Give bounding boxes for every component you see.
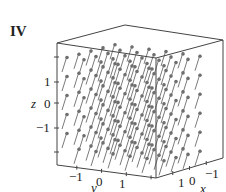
x-tick-label: 1 [178, 175, 185, 190]
field-arrow [195, 149, 202, 165]
field-arrow [178, 147, 185, 163]
field-arrow [142, 157, 149, 173]
field-arrow [74, 129, 81, 145]
cube-edge [156, 40, 223, 58]
field-arrow [178, 109, 185, 125]
field-arrow [166, 150, 173, 166]
field-arrow [62, 75, 69, 91]
x-tick-label: 0 [189, 173, 196, 188]
z-axis-labels: z 1 0 −1 [30, 74, 51, 135]
y-tick-label: 1 [119, 176, 126, 191]
field-arrow [91, 150, 98, 166]
field-arrow [86, 49, 93, 65]
field-arrow [144, 48, 151, 64]
x-tick-label: −1 [205, 166, 219, 181]
z-tick-label: 1 [44, 74, 51, 89]
field-arrow [98, 46, 105, 62]
field-arrow [108, 152, 115, 168]
field-arrow [178, 90, 185, 106]
field-arrow [62, 113, 69, 129]
field-arrow [62, 94, 69, 110]
field-arrow [195, 92, 202, 108]
field-arrow [195, 73, 202, 89]
field-arrow [195, 130, 202, 146]
cube-edge [125, 25, 223, 40]
y-tick-label: 0 [96, 174, 103, 189]
field-arrow [137, 151, 144, 167]
field-arrow [74, 72, 81, 88]
field-arrow [154, 154, 161, 170]
z-tick-label: −1 [36, 120, 50, 135]
field-arrow [74, 148, 81, 164]
cube-edge [57, 25, 125, 43]
field-arrow [62, 56, 69, 72]
field-arrow [86, 106, 93, 122]
field-arrow [120, 149, 127, 165]
field-arrow [74, 53, 81, 69]
field-arrow [195, 54, 202, 70]
field-arrow [74, 110, 81, 126]
panel-label: IV [10, 23, 27, 39]
field-arrow [74, 91, 81, 107]
vector-field-arrows [62, 43, 202, 175]
field-arrow [62, 132, 69, 148]
z-tick-label: 0 [44, 96, 51, 111]
field-arrow [159, 159, 166, 175]
y-tick-label: −1 [69, 169, 83, 184]
field-arrow [125, 154, 132, 170]
field-arrow [178, 52, 185, 68]
z-axis-label: z [30, 96, 36, 111]
field-arrow [86, 87, 93, 103]
field-arrow [195, 111, 202, 127]
x-axis-label: x [199, 181, 206, 192]
field-arrow [103, 147, 110, 163]
field-arrow [86, 125, 93, 141]
field-arrow [183, 153, 190, 169]
vector-field-figure: IV z 1 0 −1 y −1 0 1 x 1 0 −1 [0, 0, 226, 192]
field-arrow [86, 144, 93, 160]
field-arrow [86, 68, 93, 84]
field-arrow [161, 50, 168, 66]
field-arrow [178, 71, 185, 87]
field-arrow [171, 156, 178, 172]
field-arrow [178, 128, 185, 144]
